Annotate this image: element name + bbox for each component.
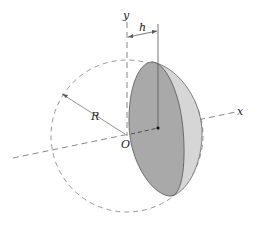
h-label: h <box>139 21 146 34</box>
x-axis-line <box>13 112 236 158</box>
x-axis-label: x <box>237 105 244 118</box>
h-arrowhead-left-icon <box>128 34 133 38</box>
radius-label: R <box>90 110 99 123</box>
origin-label: O <box>121 138 130 151</box>
spherical-cap-diagram: y h R O x <box>0 0 256 227</box>
centroid-dot <box>156 126 159 129</box>
y-axis-label: y <box>122 9 130 22</box>
h-arrowhead-right-icon <box>152 30 157 34</box>
